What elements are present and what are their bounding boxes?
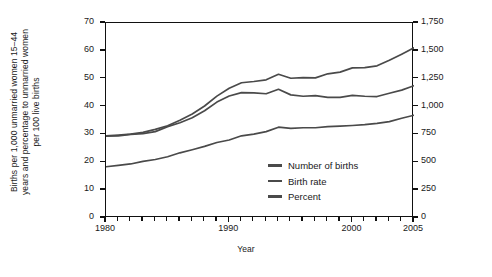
y-axis-right-tick-label: 250 xyxy=(421,183,436,193)
y-axis-left-tick-label: 40 xyxy=(84,100,94,110)
y-axis-left-tick-label: 20 xyxy=(84,155,94,165)
y-axis-right-tick-label: 1,000 xyxy=(421,100,444,110)
y-axis-left-tick-label: 70 xyxy=(84,16,94,26)
y-axis-left-title: Births per 1,000 unmarried women 15–44 y… xyxy=(9,7,53,217)
x-axis-tick-label: 2005 xyxy=(393,223,433,233)
y-axis-right-tick-label: 750 xyxy=(421,127,436,137)
y-axis-right-tick-label: 1,250 xyxy=(421,72,444,82)
chart-figure: Births per 1,000 unmarried women 15–44 y… xyxy=(0,0,492,277)
data-lines xyxy=(106,23,414,218)
y-axis-left-title-line3: per 100 live births xyxy=(31,7,42,217)
x-axis-tick-label: 1980 xyxy=(85,223,125,233)
y-axis-left-title-line2: years and percentage to unmarried women xyxy=(20,7,31,217)
y-axis-left-tick-label: 0 xyxy=(89,211,94,221)
legend-swatch-line-icon xyxy=(268,180,282,182)
legend-label: Birth rate xyxy=(288,176,327,187)
x-axis-tick-label: 1990 xyxy=(208,223,248,233)
y-axis-left-title-line1: Births per 1,000 unmarried women 15–44 xyxy=(9,7,20,217)
y-axis-right-tick-label: 1,750 xyxy=(421,16,444,26)
legend-item-birth-rate: Birth rate xyxy=(268,175,358,188)
plot-area xyxy=(105,22,413,217)
legend-item-percent: Percent xyxy=(268,190,358,203)
series-line xyxy=(106,115,414,167)
y-axis-left-tick-label: 60 xyxy=(84,44,94,54)
legend-label: Percent xyxy=(288,191,321,202)
y-axis-right-tick-label: 1,500 xyxy=(421,44,444,54)
legend-label: Number of births xyxy=(288,160,358,171)
y-axis-left-tick-label: 10 xyxy=(84,183,94,193)
series-line xyxy=(106,86,414,136)
x-axis-title: Year xyxy=(0,244,492,255)
legend-swatch-line-icon xyxy=(268,164,282,166)
series-line xyxy=(106,48,414,136)
x-axis-tick-label: 2000 xyxy=(331,223,371,233)
chart-legend: Number of births Birth rate Percent xyxy=(268,159,358,206)
y-axis-right-tick-label: 500 xyxy=(421,155,436,165)
legend-item-number-of-births: Number of births xyxy=(268,159,358,172)
y-axis-left-tick-label: 30 xyxy=(84,127,94,137)
y-axis-right-tick-label: 0 xyxy=(421,211,426,221)
y-axis-left-tick-label: 50 xyxy=(84,72,94,82)
legend-swatch-line-icon xyxy=(268,195,282,197)
